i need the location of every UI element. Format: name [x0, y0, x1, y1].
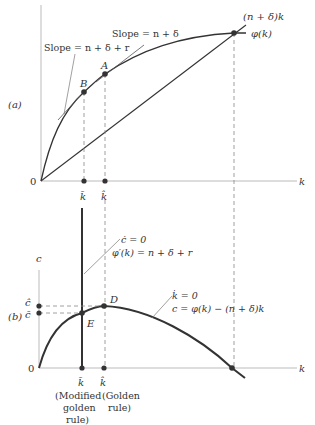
khat-label-b: k̂ [100, 376, 106, 388]
curve-label: φ(k) [251, 28, 272, 39]
slope-A-label: Slope = n + δ [112, 28, 179, 39]
cdot-eq: φ′(k) = n + δ + r [112, 247, 194, 258]
cdot-label: ċ = 0 [121, 234, 146, 245]
panel-a-label: (a) [8, 99, 22, 110]
origin-a: 0 [30, 176, 36, 187]
point-B-label: B [79, 78, 87, 89]
khat-label-a: k̂ [101, 190, 107, 202]
phi-curve [41, 33, 246, 181]
panel-b-label: (b) [8, 311, 22, 322]
tick-khat-b [101, 365, 106, 370]
line-label: (n + δ)k [243, 11, 284, 22]
caption-modified-2: golden [63, 402, 96, 413]
golden-rule-diagram: (n + δ)k φ(k) Slope = n + δ Slope = n + … [0, 0, 315, 425]
point-E [79, 310, 85, 316]
caption-golden-1: (Golden [102, 390, 140, 401]
caption-golden-2: rule) [108, 402, 131, 413]
chat-label: ĉ [25, 297, 31, 308]
origin-b: 0 [28, 363, 34, 374]
tick-chat [36, 303, 41, 308]
point-E-label: E [86, 318, 95, 329]
x-label-a: k [299, 176, 305, 187]
slope-B-label: Slope = n + δ + r [44, 42, 130, 53]
panel-b: c ċ = 0 φ′(k) = n + δ + r k̇ = 0 c = φ(k… [8, 200, 305, 425]
kdot-zero-curve [39, 306, 245, 378]
y-label-b: c [36, 253, 42, 264]
kbar-label-a: k̄ [80, 191, 86, 202]
cbar-label: c̄ [25, 309, 31, 320]
tick-cbar [36, 310, 41, 315]
tick-kmax-b [229, 365, 235, 371]
pointer-kdot [152, 296, 172, 318]
point-A [102, 71, 108, 77]
kdot-eq: c = φ(k) − (n + δ)k [172, 303, 264, 314]
point-D-label: D [109, 294, 118, 305]
point-A-label: A [100, 60, 108, 71]
tick-kbar-a [81, 178, 86, 183]
kdot-label: k̇ = 0 [172, 290, 198, 301]
caption-modified-3: rule) [66, 414, 89, 425]
point-intersect [231, 30, 237, 36]
kbar-label-b: k̄ [78, 377, 84, 388]
x-label-b: k [299, 363, 305, 374]
pointer-slope-B [64, 54, 75, 114]
point-D [101, 303, 107, 309]
tangent-B [58, 96, 80, 120]
tick-khat-a [102, 178, 107, 183]
caption-modified-1: (Modified [55, 390, 101, 401]
point-B [81, 89, 87, 95]
tick-kbar-b [79, 365, 84, 370]
